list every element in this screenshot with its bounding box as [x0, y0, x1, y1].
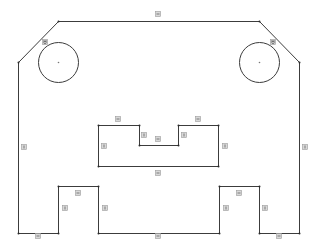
vertex-point[interactable]: [259, 233, 261, 235]
vertical-constraint-icon[interactable]: [224, 206, 229, 211]
vertex-point[interactable]: [219, 186, 221, 188]
vertical-constraint-icon[interactable]: [263, 206, 268, 211]
vertex-point[interactable]: [259, 21, 261, 23]
constraint-badges: [22, 12, 308, 239]
outer-profile[interactable]: [19, 22, 300, 234]
horizontal-constraint-icon[interactable]: [156, 137, 161, 142]
sketch-canvas[interactable]: [0, 0, 321, 251]
vertical-constraint-icon[interactable]: [182, 133, 187, 138]
vertex-point[interactable]: [58, 233, 60, 235]
center-slot-profile[interactable]: [99, 126, 219, 167]
vertex-point[interactable]: [218, 125, 220, 127]
horizontal-constraint-icon[interactable]: [237, 191, 242, 196]
tangent-constraint-icon[interactable]: [43, 40, 48, 45]
outline-edge[interactable]: [260, 22, 300, 63]
vertical-constraint-icon[interactable]: [63, 206, 68, 211]
vertex-point[interactable]: [299, 233, 301, 235]
vertex-point[interactable]: [259, 186, 261, 188]
vertex-point[interactable]: [178, 125, 180, 127]
vertex-point[interactable]: [98, 166, 100, 168]
vertex-point[interactable]: [139, 125, 141, 127]
sketch-vertices: [18, 21, 301, 235]
mounting-holes[interactable]: [39, 43, 280, 83]
vertex-point[interactable]: [218, 166, 220, 168]
vertex-point[interactable]: [18, 233, 20, 235]
tangent-constraint-icon[interactable]: [271, 40, 276, 45]
horizontal-constraint-icon[interactable]: [156, 171, 161, 176]
vertex-point[interactable]: [299, 62, 301, 64]
horizontal-constraint-icon[interactable]: [76, 191, 81, 196]
horizontal-constraint-icon[interactable]: [277, 234, 282, 239]
center-point-icon: [259, 62, 261, 64]
vertex-point[interactable]: [219, 233, 221, 235]
vertex-point[interactable]: [98, 186, 100, 188]
vertical-constraint-icon[interactable]: [303, 145, 308, 150]
vertex-point[interactable]: [139, 145, 141, 147]
horizontal-constraint-icon[interactable]: [156, 12, 161, 17]
horizontal-constraint-icon[interactable]: [196, 117, 201, 122]
vertical-constraint-icon[interactable]: [102, 144, 107, 149]
vertex-point[interactable]: [58, 186, 60, 188]
horizontal-constraint-icon[interactable]: [156, 234, 161, 239]
vertical-constraint-icon[interactable]: [22, 145, 27, 150]
vertex-point[interactable]: [98, 233, 100, 235]
vertex-point[interactable]: [18, 62, 20, 64]
vertical-constraint-icon[interactable]: [142, 133, 147, 138]
horizontal-constraint-icon[interactable]: [36, 234, 41, 239]
vertex-point[interactable]: [178, 145, 180, 147]
vertex-point[interactable]: [98, 125, 100, 127]
horizontal-constraint-icon[interactable]: [116, 117, 121, 122]
vertex-point[interactable]: [58, 21, 60, 23]
center-point-icon: [58, 62, 60, 64]
vertical-constraint-icon[interactable]: [103, 206, 108, 211]
vertical-constraint-icon[interactable]: [223, 144, 228, 149]
outline-edge[interactable]: [19, 22, 59, 63]
